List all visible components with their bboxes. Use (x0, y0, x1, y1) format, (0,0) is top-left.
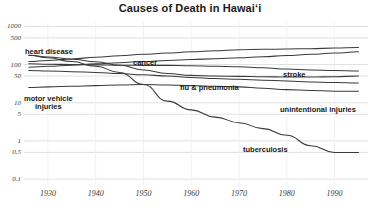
chart-title: Causes of Death in Hawaiʻi (0, 2, 380, 14)
x-axis-tick-label: 1990 (318, 189, 352, 198)
series-label-flu-pneumonia: flu & pneumonia (180, 84, 239, 92)
series-label-unintentional-injuries: unintentional injuries (280, 106, 356, 114)
series-label-tuberculosis: tuberculosis (243, 146, 288, 154)
series-label-cancer: cancer (133, 59, 157, 67)
y-axis-tick-label: 50 (0, 72, 21, 80)
gridlines (24, 22, 368, 185)
chart-canvas (24, 22, 368, 185)
y-axis-tick-label: 5 (0, 110, 21, 118)
x-axis-tick-label: 1950 (126, 189, 160, 198)
x-axis-tick-label: 1970 (222, 189, 256, 198)
y-axis-tick-label: 1 (0, 137, 21, 145)
y-axis-tick-label: 10 (0, 99, 21, 107)
chart-figure: Causes of Death in Hawaiʻi 1000500100501… (0, 0, 380, 214)
x-axis-tick-label: 1960 (174, 189, 208, 198)
y-axis-tick-label: 0.1 (0, 175, 21, 183)
plot-area (24, 22, 368, 185)
series-label-heart-disease: heart disease (25, 48, 73, 56)
series-label-motor-vehicle-injuries: motor vehicleinjuries (24, 95, 73, 112)
x-axis-tick-label: 1980 (270, 189, 304, 198)
y-axis-tick-label: 1000 (0, 22, 21, 30)
x-axis-tick-label: 1930 (31, 189, 65, 198)
series-lines (29, 47, 359, 152)
y-axis-tick-label: 0.5 (0, 148, 21, 156)
y-axis-tick-label: 100 (0, 61, 21, 69)
y-axis-tick-label: 500 (0, 34, 21, 42)
x-axis-tick-label: 1940 (79, 189, 113, 198)
series-label-stroke: stroke (283, 71, 306, 79)
